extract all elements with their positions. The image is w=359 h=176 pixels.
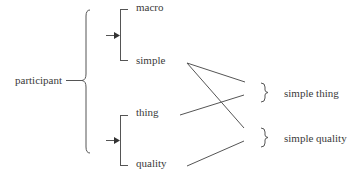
option-label-thing: thing <box>136 107 159 118</box>
option-label-macro: macro <box>136 2 163 13</box>
connection-thing-to-simple-thing <box>180 95 244 115</box>
option-label-simple: simple <box>136 55 165 66</box>
curly-brace-icon <box>82 10 90 153</box>
root-label: participant <box>15 75 62 86</box>
option-label-quality: quality <box>136 158 167 169</box>
connection-quality-to-simple-quality <box>187 141 244 166</box>
combination-label-simple-quality: simple quality <box>284 133 347 144</box>
arrow-icon <box>114 137 120 144</box>
right-brace-icon <box>261 128 268 147</box>
combination-label-simple-thing: simple thing <box>284 88 339 99</box>
arrow-icon <box>114 32 120 39</box>
system-network-diagram: participant macro simple thing quality s… <box>0 0 359 176</box>
right-brace-icon <box>261 83 268 102</box>
